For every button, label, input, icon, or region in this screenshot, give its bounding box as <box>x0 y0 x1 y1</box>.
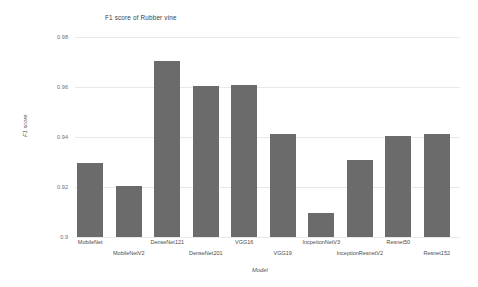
x-tick-label: VGG19 <box>274 250 292 256</box>
x-tick-label: VGG16 <box>235 239 253 245</box>
x-tick-label: MobileNetV2 <box>113 250 145 256</box>
y-tick-label: 0.98 <box>0 34 76 40</box>
y-tick-label: 0.9 <box>0 234 76 240</box>
x-tick-label: DenseNet201 <box>189 250 223 256</box>
x-axis-ticks: MobileNetMobileNetV2DenseNet121DenseNet2… <box>75 237 460 267</box>
y-axis-label: F1 score <box>22 114 28 137</box>
x-axis-label: Model <box>252 267 268 273</box>
y-tick-label: 0.94 <box>0 134 76 140</box>
x-tick-label: DenseNet121 <box>150 239 184 245</box>
x-tick-label: InceptionResnetV2 <box>337 250 383 256</box>
x-tick-label: Resnet152 <box>423 250 450 256</box>
bar-chart-figure: F1 score of Rubber vine 0.980.960.940.92… <box>0 0 478 287</box>
x-tick-label: Resnet50 <box>386 239 410 245</box>
x-tick-label: MobileNet <box>78 239 103 245</box>
x-tick-label: IncpetionNetV3 <box>302 239 340 245</box>
y-tick-label: 0.92 <box>0 184 76 190</box>
y-tick-label: 0.96 <box>0 84 76 90</box>
